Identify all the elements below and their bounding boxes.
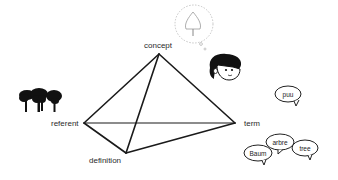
speech-bubble-label: tree: [299, 145, 311, 152]
vertex-label-referent: referent: [51, 120, 79, 128]
speech-bubble-label: puu: [283, 91, 294, 99]
person-face-icon: [210, 54, 241, 80]
vertex-label-definition: definition: [89, 157, 121, 165]
speech-bubble-puu: puu: [275, 86, 301, 106]
semiotic-tetrahedron-diagram: puu arbre tree Baum concept referent ter…: [0, 0, 338, 180]
trees-icon: [19, 88, 62, 112]
vertex-label-term: term: [244, 120, 260, 128]
vertex-label-concept: concept: [144, 42, 172, 50]
speech-bubble-baum: Baum: [244, 145, 272, 165]
edge-referent-definition: [84, 123, 126, 153]
speech-bubble-tree: tree: [292, 140, 318, 160]
edge-definition-term: [126, 123, 235, 153]
thought-bubble-tree-icon: [175, 5, 213, 50]
speech-bubble-label: arbre: [272, 139, 288, 146]
speech-bubble-label: Baum: [250, 150, 267, 157]
